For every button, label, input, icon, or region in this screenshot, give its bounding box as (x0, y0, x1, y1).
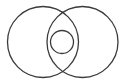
venn-diagram (0, 0, 125, 82)
